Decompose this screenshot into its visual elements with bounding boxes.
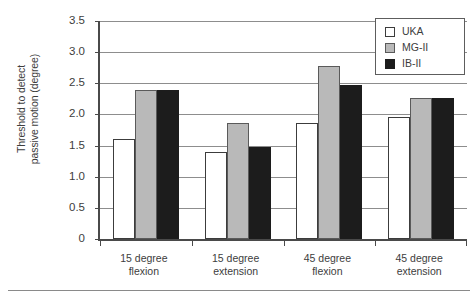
legend-label: UKA: [402, 26, 424, 37]
y-axis-tick-label: 3.0: [45, 46, 85, 57]
y-axis-tick-label: 1.0: [45, 171, 85, 182]
legend-label: IB-II: [402, 58, 421, 69]
bar: [205, 152, 227, 239]
legend-item: UKA: [385, 24, 464, 39]
bar: [296, 123, 318, 239]
x-axis-category-label: 15 degree flexion: [98, 252, 190, 277]
bar: [318, 66, 340, 239]
bar: [249, 147, 271, 239]
x-axis-tickmark: [284, 240, 285, 246]
bar-chart: Threshold to detect passive motion (degr…: [0, 0, 476, 298]
bar: [113, 139, 135, 239]
x-axis-tickmark: [192, 240, 193, 246]
legend: UKAMG-IIIB-II: [375, 18, 465, 75]
bar: [432, 98, 454, 239]
y-axis-tick-labels: 3.53.02.52.01.51.00.50: [41, 0, 85, 298]
x-axis-tickmark: [466, 240, 467, 246]
legend-swatch-icon: [385, 27, 395, 37]
legend-swatch-icon: [385, 59, 395, 69]
y-axis-tick-label: 0.5: [45, 202, 85, 213]
legend-item: MG-II: [385, 40, 464, 55]
legend-item: IB-II: [385, 56, 464, 71]
y-axis-tick-label: 1.5: [45, 140, 85, 151]
x-axis-category-label: 45 degree extension: [373, 252, 465, 277]
x-axis-category-label: 45 degree flexion: [282, 252, 374, 277]
y-axis-tick-label: 2.0: [45, 108, 85, 119]
y-axis-tick-label: 0: [45, 233, 85, 244]
bottom-divider: [8, 290, 470, 291]
x-axis-tickmark: [100, 240, 101, 246]
legend-swatch-icon: [385, 43, 395, 53]
bar: [227, 123, 249, 239]
legend-label: MG-II: [402, 42, 428, 53]
bar: [388, 117, 410, 239]
bar: [410, 98, 432, 239]
x-axis-category-label: 15 degree extension: [190, 252, 282, 277]
x-axis-category-labels: 15 degree flexion15 degree extension45 d…: [98, 252, 465, 292]
bar: [340, 85, 362, 239]
x-axis-tickmark: [375, 240, 376, 246]
y-axis-tick-label: 2.5: [45, 77, 85, 88]
y-axis-tick-label: 3.5: [45, 15, 85, 26]
bar: [135, 90, 157, 239]
bar: [157, 90, 179, 239]
